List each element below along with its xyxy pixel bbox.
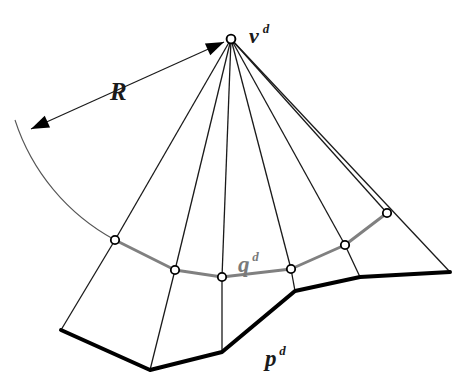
- q-label-base: q: [238, 252, 250, 277]
- figure-container: v d R q d p d: [0, 0, 464, 389]
- marker-5: [341, 241, 349, 249]
- marker-6: [383, 209, 391, 217]
- ray-4: [231, 39, 291, 269]
- edge-5: [345, 245, 360, 277]
- apex-label-base: v: [249, 23, 259, 48]
- radius-label-group: R: [109, 78, 127, 105]
- radius-arrowhead-apex-end: [205, 42, 224, 55]
- p-label-group: p d: [263, 343, 286, 371]
- marker-4: [287, 265, 295, 273]
- marker-1: [111, 236, 119, 244]
- marker-2: [171, 266, 179, 274]
- geometric-diagram-svg: v d R q d p d: [0, 0, 464, 389]
- edge-1: [61, 240, 115, 330]
- p-polyline-thick-black: [61, 272, 450, 370]
- ray-6: [231, 39, 387, 213]
- marker-3: [218, 273, 226, 281]
- radius-arrow-group: [31, 42, 224, 129]
- ray-fan-group: [115, 39, 450, 277]
- radius-arrowhead-arc-end: [31, 116, 50, 129]
- marker-apex-vertex: [227, 35, 236, 44]
- apex-label-group: v d: [249, 21, 270, 49]
- ray-1: [115, 39, 231, 240]
- ray-3: [222, 39, 231, 277]
- ray-2: [175, 39, 231, 270]
- p-label-superscript: d: [279, 343, 286, 358]
- apex-label-superscript: d: [263, 21, 270, 36]
- radius-arc-group: [15, 120, 115, 240]
- radius-arrow-line: [31, 42, 224, 129]
- p-label-base: p: [263, 346, 277, 371]
- radius-label-base: R: [109, 78, 127, 105]
- edge-2: [150, 270, 175, 370]
- q-label-superscript: d: [252, 249, 259, 264]
- radius-arc: [15, 120, 115, 240]
- vertex-marker-group: [111, 35, 391, 282]
